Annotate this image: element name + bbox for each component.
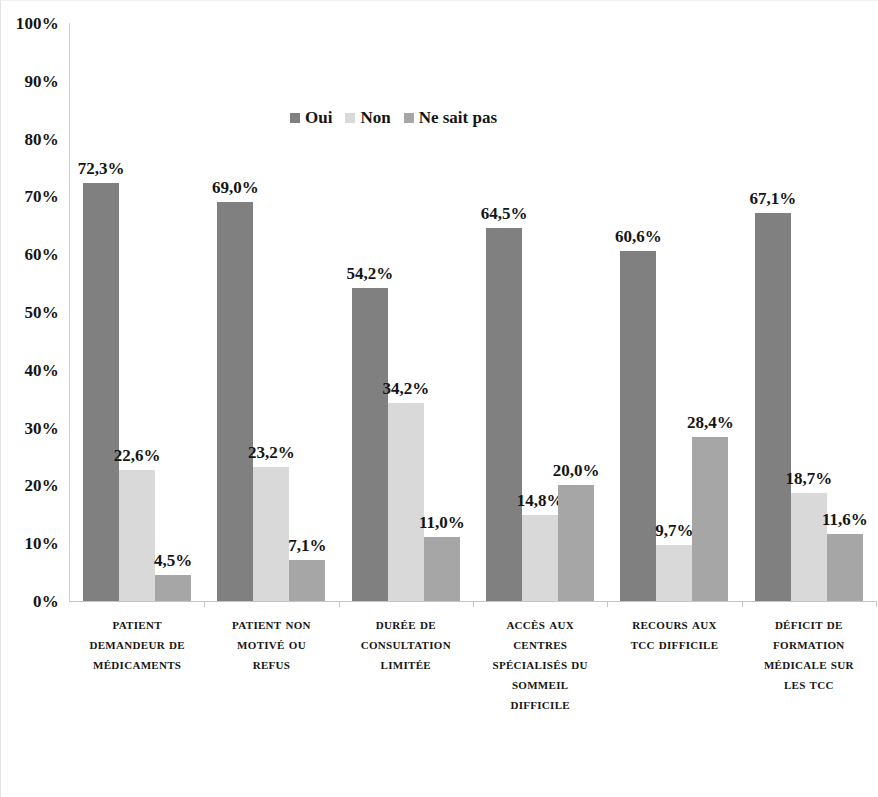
category-label-line: demandeur de bbox=[70, 635, 204, 655]
bar[interactable] bbox=[486, 228, 522, 601]
bar[interactable] bbox=[388, 403, 424, 601]
category-label: Déficit deformationmédicale surles TCC bbox=[742, 615, 876, 695]
bar[interactable] bbox=[692, 437, 728, 601]
category-label-line: limitée bbox=[339, 655, 473, 675]
bar-value-label: 22,6% bbox=[114, 447, 161, 464]
bar[interactable] bbox=[253, 467, 289, 601]
bar-value-label: 14,8% bbox=[517, 492, 564, 509]
bar-value-label: 60,6% bbox=[615, 228, 662, 245]
bar-slot: 64,5% bbox=[486, 23, 522, 601]
y-tick-label: 30% bbox=[1, 420, 59, 437]
bar-slot: 4,5% bbox=[155, 23, 191, 601]
bar-group: 67,1%18,7%11,6% bbox=[742, 23, 876, 601]
bar-group: 69,0%23,2%7,1% bbox=[204, 23, 338, 601]
bar[interactable] bbox=[352, 288, 388, 601]
bar-slot: 20,0% bbox=[558, 23, 594, 601]
category-label-line: difficile bbox=[473, 695, 607, 715]
bar-value-label: 9,7% bbox=[655, 522, 693, 539]
bar-value-label: 64,5% bbox=[481, 205, 528, 222]
bar-group: 72,3%22,6%4,5% bbox=[70, 23, 204, 601]
bar[interactable] bbox=[522, 515, 558, 601]
y-tick-label: 100% bbox=[1, 15, 59, 32]
category-label-line: médicaments bbox=[70, 655, 204, 675]
category-label-line: Recours aux bbox=[607, 615, 741, 635]
y-tick-label: 50% bbox=[1, 304, 59, 321]
category-label: Durée deconsultationlimitée bbox=[339, 615, 473, 675]
y-tick-label: 0% bbox=[1, 593, 59, 610]
bar-value-label: 4,5% bbox=[154, 552, 192, 569]
bar-slot: 23,2% bbox=[253, 23, 289, 601]
bar[interactable] bbox=[424, 537, 460, 601]
bar-slot: 14,8% bbox=[522, 23, 558, 601]
category-label-line: consultation bbox=[339, 635, 473, 655]
bar-slot: 72,3% bbox=[83, 23, 119, 601]
category-label-line: motivé ou bbox=[204, 635, 338, 655]
bar-group: 60,6%9,7%28,4% bbox=[607, 23, 741, 601]
category-label-line: les TCC bbox=[742, 675, 876, 695]
bar-value-label: 7,1% bbox=[288, 537, 326, 554]
bar[interactable] bbox=[558, 485, 594, 601]
bar-slot: 22,6% bbox=[119, 23, 155, 601]
bar[interactable] bbox=[119, 470, 155, 601]
bar-value-label: 11,0% bbox=[419, 514, 465, 531]
bar-value-label: 20,0% bbox=[553, 462, 600, 479]
x-axis-tick bbox=[473, 601, 474, 607]
bar-slot: 28,4% bbox=[692, 23, 728, 601]
bar[interactable] bbox=[217, 202, 253, 601]
bar[interactable] bbox=[755, 213, 791, 601]
bar-group: 64,5%14,8%20,0% bbox=[473, 23, 607, 601]
plot-area: 72,3%22,6%4,5%69,0%23,2%7,1%54,2%34,2%11… bbox=[70, 23, 876, 601]
category-label-line: formation bbox=[742, 635, 876, 655]
bar-slot: 54,2% bbox=[352, 23, 388, 601]
category-label-line: médicale sur bbox=[742, 655, 876, 675]
bar[interactable] bbox=[83, 183, 119, 601]
category-label: Patientdemandeur demédicaments bbox=[70, 615, 204, 675]
category-label-line: refus bbox=[204, 655, 338, 675]
category-label: Recours auxTCC difficile bbox=[607, 615, 741, 655]
bar-value-label: 54,2% bbox=[346, 265, 393, 282]
category-label: Patient nonmotivé ourefus bbox=[204, 615, 338, 675]
bar-slot: 11,6% bbox=[827, 23, 863, 601]
y-tick-label: 40% bbox=[1, 362, 59, 379]
bar-value-label: 34,2% bbox=[382, 380, 429, 397]
x-axis-tick bbox=[876, 601, 877, 607]
x-axis-tick bbox=[204, 601, 205, 607]
y-tick-label: 20% bbox=[1, 477, 59, 494]
x-axis-tick bbox=[339, 601, 340, 607]
bar[interactable] bbox=[827, 534, 863, 601]
bar-value-label: 72,3% bbox=[78, 160, 125, 177]
bar-value-label: 28,4% bbox=[687, 414, 734, 431]
bar-value-label: 67,1% bbox=[749, 190, 796, 207]
x-axis-tick bbox=[607, 601, 608, 607]
bar-value-label: 23,2% bbox=[248, 444, 295, 461]
bar-slot: 69,0% bbox=[217, 23, 253, 601]
bar-slot: 7,1% bbox=[289, 23, 325, 601]
y-tick-label: 10% bbox=[1, 535, 59, 552]
category-label-line: TCC difficile bbox=[607, 635, 741, 655]
bar-group: 54,2%34,2%11,0% bbox=[339, 23, 473, 601]
x-axis-tick bbox=[742, 601, 743, 607]
y-tick-label: 70% bbox=[1, 188, 59, 205]
bar[interactable] bbox=[656, 545, 692, 601]
bar-chart: 100%90%80%70%60%50%40%30%20%10%0% OuiNon… bbox=[0, 0, 878, 797]
category-label: Accès auxcentresspécialisés dusommeildif… bbox=[473, 615, 607, 715]
bar-slot: 60,6% bbox=[620, 23, 656, 601]
y-tick-label: 90% bbox=[1, 73, 59, 90]
category-label-line: Durée de bbox=[339, 615, 473, 635]
category-label-line: centres bbox=[473, 635, 607, 655]
y-tick-label: 60% bbox=[1, 246, 59, 263]
category-label-line: sommeil bbox=[473, 675, 607, 695]
bar-value-label: 18,7% bbox=[785, 470, 832, 487]
bar[interactable] bbox=[289, 560, 325, 601]
bar[interactable] bbox=[620, 251, 656, 601]
y-tick-label: 80% bbox=[1, 131, 59, 148]
bar-slot: 11,0% bbox=[424, 23, 460, 601]
bar-slot: 67,1% bbox=[755, 23, 791, 601]
category-label-line: Patient bbox=[70, 615, 204, 635]
bar-value-label: 69,0% bbox=[212, 179, 259, 196]
bar-value-label: 11,6% bbox=[822, 511, 868, 528]
category-label-line: Accès aux bbox=[473, 615, 607, 635]
category-label-line: Déficit de bbox=[742, 615, 876, 635]
bar[interactable] bbox=[155, 575, 191, 601]
bar-slot: 9,7% bbox=[656, 23, 692, 601]
